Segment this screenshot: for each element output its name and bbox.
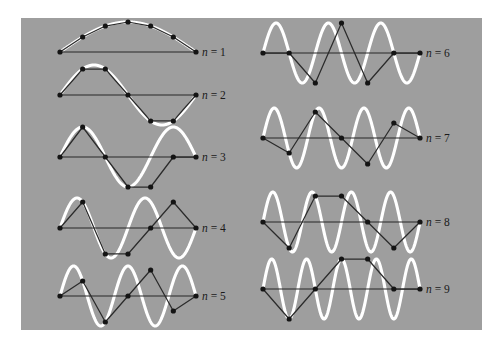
fixed-end-dot xyxy=(193,225,198,230)
fixed-end-dot xyxy=(57,154,62,159)
fixed-end-dot xyxy=(57,225,62,230)
mode-label-n8: n = 8 xyxy=(426,216,450,228)
mass-dot xyxy=(339,135,344,140)
mass-dot xyxy=(391,50,396,55)
fixed-end-dot xyxy=(193,293,198,298)
mass-dot xyxy=(287,150,292,155)
mode-label-n5: n = 5 xyxy=(202,290,226,302)
fixed-end-dot xyxy=(193,49,198,54)
mass-dot xyxy=(287,316,292,321)
mass-dot xyxy=(125,184,130,189)
mass-dot xyxy=(391,120,396,125)
fixed-end-dot xyxy=(260,135,265,140)
mass-dot xyxy=(125,92,130,97)
fixed-end-dot xyxy=(417,286,422,291)
mode-label-value: = 6 xyxy=(432,47,450,59)
fixed-end-dot xyxy=(193,154,198,159)
fixed-end-dot xyxy=(417,135,422,140)
mass-dot xyxy=(391,286,396,291)
fixed-end-dot xyxy=(260,286,265,291)
mode-label-value: = 1 xyxy=(208,46,226,58)
mode-label-value: = 2 xyxy=(208,89,226,101)
mode-panel-n9: n = 9 xyxy=(260,256,450,321)
mode-panel-n7: n = 7 xyxy=(260,108,450,168)
mass-dot xyxy=(80,34,85,39)
mass-dot xyxy=(287,50,292,55)
mode-label-n2: n = 2 xyxy=(202,89,226,101)
figure-canvas: n = 1n = 2n = 3n = 4n = 5n = 6n = 7n = 8… xyxy=(0,0,504,349)
mass-dot xyxy=(365,161,370,166)
fixed-end-dot xyxy=(57,293,62,298)
mass-dot xyxy=(313,286,318,291)
mass-dot xyxy=(365,80,370,85)
mass-dot xyxy=(80,278,85,283)
mass-dot xyxy=(80,66,85,71)
mass-dot xyxy=(148,23,153,28)
mode-label-value: = 3 xyxy=(208,151,226,163)
fixed-end-dot xyxy=(193,92,198,97)
fixed-end-dot xyxy=(57,49,62,54)
mode-panel-n1: n = 1 xyxy=(57,19,226,58)
mode-label-n4: n = 4 xyxy=(202,222,226,234)
mass-dot xyxy=(171,118,176,123)
mass-dot xyxy=(339,193,344,198)
mode-label-n9: n = 9 xyxy=(426,283,450,295)
mode-label-n7: n = 7 xyxy=(426,132,450,144)
mode-panel-n2: n = 2 xyxy=(57,65,226,125)
mass-dot xyxy=(80,124,85,129)
fixed-end-dot xyxy=(260,219,265,224)
mass-dot xyxy=(148,184,153,189)
fixed-end-dot xyxy=(417,219,422,224)
mass-dot xyxy=(103,154,108,159)
mass-dot xyxy=(148,267,153,272)
mass-dot xyxy=(103,319,108,324)
mass-dot xyxy=(365,219,370,224)
mode-label-value: = 5 xyxy=(208,290,226,302)
mass-dot xyxy=(148,118,153,123)
mass-dot xyxy=(125,293,130,298)
mass-dot xyxy=(313,80,318,85)
mass-dot xyxy=(287,245,292,250)
mass-dot xyxy=(171,34,176,39)
mode-panel-n8: n = 8 xyxy=(260,192,450,252)
mass-dot xyxy=(339,256,344,261)
normal-modes-figure: n = 1n = 2n = 3n = 4n = 5n = 6n = 7n = 8… xyxy=(0,0,504,349)
mode-label-value: = 8 xyxy=(432,216,450,228)
mass-dot xyxy=(313,193,318,198)
mass-dot xyxy=(171,308,176,313)
mass-dot xyxy=(125,251,130,256)
mass-dot xyxy=(103,66,108,71)
mode-label-value: = 4 xyxy=(208,222,226,234)
mass-dot xyxy=(339,20,344,25)
mode-label-n6: n = 6 xyxy=(426,47,450,59)
mode-panel-n6: n = 6 xyxy=(260,20,450,85)
mode-label-n3: n = 3 xyxy=(202,151,226,163)
mass-dot xyxy=(313,109,318,114)
mode-label-value: = 9 xyxy=(432,283,450,295)
mode-panel-n3: n = 3 xyxy=(57,124,226,189)
mass-dot xyxy=(365,256,370,261)
mode-panel-n5: n = 5 xyxy=(57,266,226,326)
mass-dot xyxy=(103,23,108,28)
fixed-end-dot xyxy=(260,50,265,55)
mass-dot xyxy=(103,251,108,256)
mass-dot xyxy=(125,19,130,24)
fixed-end-dot xyxy=(417,50,422,55)
mass-dot xyxy=(391,245,396,250)
mode-panel-n4: n = 4 xyxy=(57,198,226,258)
mass-dot xyxy=(148,225,153,230)
mass-dot xyxy=(171,154,176,159)
mass-dot xyxy=(80,199,85,204)
mode-label-value: = 7 xyxy=(432,132,450,144)
mass-dot xyxy=(171,199,176,204)
fixed-end-dot xyxy=(57,92,62,97)
mode-label-n1: n = 1 xyxy=(202,46,226,58)
